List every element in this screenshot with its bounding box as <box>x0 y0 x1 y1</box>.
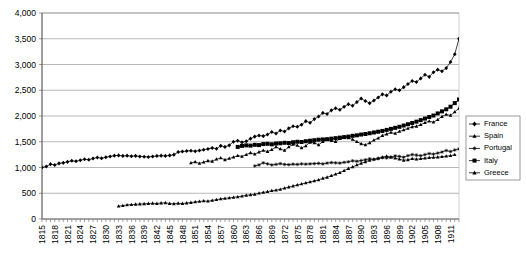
data-point-marker <box>393 87 397 91</box>
data-point-marker <box>168 153 172 157</box>
data-point-marker <box>436 111 440 115</box>
data-point-marker <box>274 131 278 135</box>
data-point-marker <box>410 121 414 125</box>
xtick-label: 1848 <box>178 225 188 244</box>
data-point-marker <box>334 106 338 110</box>
data-point-marker <box>338 108 342 112</box>
data-point-marker <box>346 135 350 139</box>
xtick-label: 1890 <box>356 225 366 244</box>
data-point-marker <box>287 141 291 145</box>
data-point-marker <box>295 125 299 129</box>
data-point-marker <box>147 155 151 159</box>
data-point-marker <box>453 101 457 105</box>
xtick-label: 1845 <box>165 225 175 244</box>
data-point-marker <box>325 161 329 165</box>
data-point-marker <box>313 162 317 166</box>
data-point-marker <box>49 162 53 166</box>
data-point-marker <box>304 139 308 143</box>
data-point-marker <box>449 150 453 154</box>
data-point-marker <box>427 115 431 119</box>
xtick-label: 1860 <box>229 225 239 244</box>
data-point-marker <box>236 145 240 149</box>
data-point-marker <box>253 164 257 168</box>
data-point-marker <box>240 144 244 148</box>
series-line <box>42 39 459 168</box>
data-point-marker <box>368 131 372 135</box>
line-chart: 05001,0001,5002,0002,5003,0003,5004,0001… <box>0 0 526 273</box>
data-point-marker <box>261 161 265 165</box>
data-point-marker <box>240 140 244 144</box>
data-point-marker <box>117 153 121 157</box>
data-point-marker <box>380 129 384 133</box>
data-point-marker <box>406 154 410 158</box>
data-point-marker <box>444 113 448 116</box>
data-point-marker <box>473 159 477 163</box>
data-point-marker <box>300 140 304 144</box>
data-point-marker <box>436 68 440 72</box>
data-point-marker <box>278 141 282 145</box>
data-point-marker <box>125 154 129 158</box>
data-point-marker <box>206 147 210 151</box>
data-point-marker <box>457 98 461 102</box>
data-point-marker <box>291 124 295 128</box>
data-point-marker <box>436 151 440 155</box>
data-point-marker <box>206 159 210 162</box>
data-point-marker <box>385 154 389 157</box>
data-point-marker <box>287 145 291 148</box>
legend-label: Portugal <box>484 143 512 152</box>
legend: FranceSpainPortugalItalyGreece <box>466 116 520 180</box>
data-point-marker <box>83 157 87 161</box>
data-point-marker <box>402 85 406 89</box>
data-point-marker <box>121 154 125 158</box>
data-point-marker <box>193 149 197 153</box>
data-point-marker <box>346 102 350 106</box>
data-point-marker <box>236 139 240 143</box>
data-point-marker <box>112 154 116 158</box>
data-point-marker <box>257 134 261 138</box>
data-point-marker <box>287 126 291 130</box>
data-point-marker <box>176 150 180 154</box>
xtick-label: 1896 <box>382 225 392 244</box>
data-point-marker <box>261 149 265 152</box>
data-point-marker <box>253 135 257 139</box>
data-point-marker <box>202 148 206 152</box>
data-point-marker <box>181 149 185 153</box>
data-point-marker <box>453 153 457 156</box>
legend-label: Italy <box>484 156 498 165</box>
data-point-marker <box>410 157 414 160</box>
data-point-marker <box>330 161 334 165</box>
data-point-marker <box>257 163 261 167</box>
ytick-label: 3,000 <box>15 60 37 70</box>
data-point-marker <box>372 130 376 134</box>
data-point-marker <box>423 117 427 121</box>
xtick-label: 1875 <box>293 225 303 244</box>
data-point-marker <box>108 154 112 158</box>
data-point-marker <box>453 52 457 56</box>
ytick-label: 500 <box>22 188 36 198</box>
data-point-marker <box>270 142 274 146</box>
data-point-marker <box>385 128 389 132</box>
data-point-marker <box>355 133 359 137</box>
data-point-marker <box>100 156 104 160</box>
data-point-marker <box>440 109 444 113</box>
xtick-label: 1908 <box>433 225 443 244</box>
data-point-marker <box>283 141 287 145</box>
data-point-marker <box>406 82 410 86</box>
data-point-marker <box>295 140 299 144</box>
data-point-marker <box>431 113 435 117</box>
data-point-marker <box>261 134 265 138</box>
data-point-marker <box>172 153 176 157</box>
xtick-label: 1833 <box>114 225 124 244</box>
xtick-label: 1881 <box>318 225 328 244</box>
data-point-marker <box>457 106 461 109</box>
data-point-marker <box>419 118 423 122</box>
data-point-marker <box>448 105 452 109</box>
data-point-marker <box>406 122 410 126</box>
data-point-marker <box>257 143 261 147</box>
data-point-marker <box>266 162 270 166</box>
data-point-marker <box>359 133 363 137</box>
data-point-marker <box>57 161 61 165</box>
data-point-marker <box>427 119 431 122</box>
xtick-label: 1866 <box>254 225 264 244</box>
data-point-marker <box>325 137 329 141</box>
